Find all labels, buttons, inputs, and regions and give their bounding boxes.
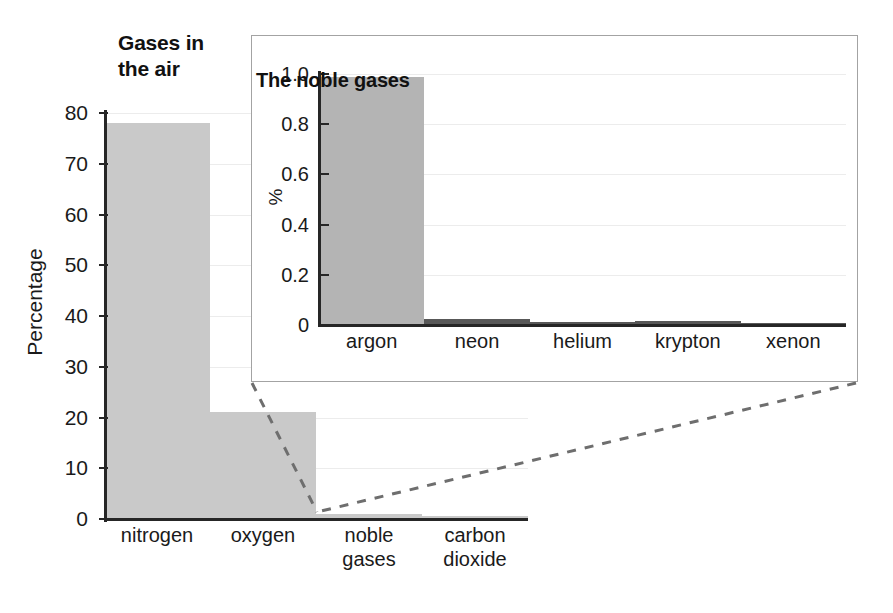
inset-chart-x-axis-line bbox=[318, 324, 846, 327]
inset-chart-y-tick-mark bbox=[320, 123, 329, 125]
main-chart-x-tick-label-line: noble bbox=[316, 524, 422, 548]
main-chart-title-line1: Gases in bbox=[118, 30, 268, 56]
main-chart-y-tick-mark bbox=[99, 112, 108, 114]
main-chart-x-tick-label-line: oxygen bbox=[210, 524, 316, 548]
main-chart-x-tick-label: carbondioxide bbox=[422, 524, 528, 571]
main-chart-x-tick-label: oxygen bbox=[210, 524, 316, 548]
main-chart-y-tick-label: 80 bbox=[28, 101, 88, 125]
inset-chart-y-tick-labels: 00.20.40.60.81.0 bbox=[252, 74, 309, 325]
main-chart-y-tick-mark bbox=[99, 264, 108, 266]
inset-chart-y-tick-mark bbox=[320, 173, 329, 175]
inset-chart-y-tick-label: 0.2 bbox=[252, 263, 309, 286]
inset-chart-bar bbox=[319, 77, 424, 325]
inset-chart-y-tick-mark bbox=[320, 274, 329, 276]
main-chart-x-tick-label: noblegases bbox=[316, 524, 422, 571]
inset-chart-title: The noble gases bbox=[256, 69, 410, 92]
main-chart-y-tick-mark bbox=[99, 315, 108, 317]
main-chart-y-tick-label: 30 bbox=[28, 355, 88, 379]
inset-chart-x-tick-label: argon bbox=[319, 330, 424, 353]
inset-chart-y-tick-label: 0.6 bbox=[252, 163, 309, 186]
main-chart-y-tick-mark bbox=[99, 214, 108, 216]
main-chart-bar bbox=[210, 412, 316, 519]
main-chart-x-tick-labels: nitrogenoxygennoblegasescarbondioxide bbox=[104, 524, 528, 604]
main-chart-y-tick-mark bbox=[99, 417, 108, 419]
inset-chart-y-axis-line bbox=[318, 71, 321, 327]
inset-chart-y-tick-label: 0 bbox=[252, 314, 309, 337]
main-chart-y-tick-label: 50 bbox=[28, 253, 88, 277]
main-chart-y-tick-label: 60 bbox=[28, 203, 88, 227]
main-chart-x-tick-label-line: carbon bbox=[422, 524, 528, 548]
inset-chart-y-tick-label: 0.8 bbox=[252, 113, 309, 136]
inset-chart-y-tick-label: 0.4 bbox=[252, 213, 309, 236]
main-chart-y-tick-mark bbox=[99, 467, 108, 469]
main-chart-x-tick-label-line: nitrogen bbox=[104, 524, 210, 548]
main-chart-x-tick-label-line: dioxide bbox=[422, 548, 528, 572]
main-chart-y-tick-mark bbox=[99, 163, 108, 165]
main-chart-y-tick-label: 20 bbox=[28, 406, 88, 430]
main-chart-y-tick-labels: 01020304050607080 bbox=[28, 113, 88, 519]
inset-chart-x-tick-labels: argonneonheliumkryptonxenon bbox=[319, 330, 846, 370]
main-chart-x-tick-label-line: gases bbox=[316, 548, 422, 572]
main-chart-y-tick-mark bbox=[99, 366, 108, 368]
inset-chart-x-tick-label: helium bbox=[530, 330, 635, 353]
main-chart-y-tick-label: 10 bbox=[28, 456, 88, 480]
main-chart-title-line2: the air bbox=[118, 56, 268, 82]
main-chart-y-tick-label: 70 bbox=[28, 152, 88, 176]
inset-chart-x-tick-label: krypton bbox=[635, 330, 740, 353]
main-chart-bar bbox=[104, 123, 210, 519]
figure-gases-in-the-air: Gases in the air Percentage 010203040506… bbox=[0, 0, 893, 613]
main-chart-y-tick-mark bbox=[99, 518, 108, 520]
inset-chart-y-tick-mark bbox=[320, 324, 329, 326]
main-chart-y-tick-label: 40 bbox=[28, 304, 88, 328]
main-chart-x-tick-label: nitrogen bbox=[104, 524, 210, 548]
inset-chart-y-tick-mark bbox=[320, 224, 329, 226]
inset-chart-x-tick-label: neon bbox=[424, 330, 529, 353]
main-chart-title: Gases in the air bbox=[118, 30, 268, 81]
inset-chart-plot-area bbox=[319, 74, 846, 325]
main-chart-y-tick-label: 0 bbox=[28, 507, 88, 531]
inset-chart-x-tick-label: xenon bbox=[741, 330, 846, 353]
main-chart-x-axis-line bbox=[104, 518, 528, 521]
